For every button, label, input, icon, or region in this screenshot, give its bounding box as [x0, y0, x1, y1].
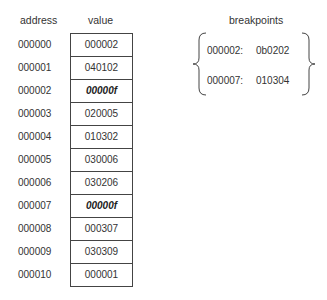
- right-brace-icon: [302, 33, 315, 95]
- breakpoint-saved-value: 010304: [256, 75, 289, 86]
- left-brace-icon: [193, 33, 206, 95]
- breakpoint-address: 000007:: [207, 75, 243, 86]
- breakpoint-saved-value: 0b0202: [256, 45, 289, 56]
- breakpoint-address: 000002:: [207, 45, 243, 56]
